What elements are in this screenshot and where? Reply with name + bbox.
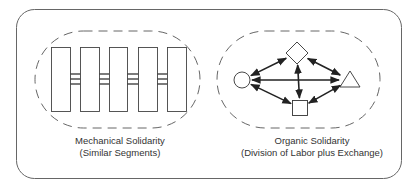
exchange-arrow-circle-diamond: [251, 58, 286, 75]
mechanical-solidarity-panel: [35, 31, 200, 128]
exchange-arrow-diamond-square: [298, 65, 300, 98]
organic-solidarity-caption: Organic Solidarity (Division of Labor pl…: [222, 135, 402, 159]
similar-segments: [52, 48, 187, 112]
diamond-node: [286, 42, 308, 64]
triangle-node: [340, 71, 360, 87]
exchange-arrow-square-triangle: [309, 85, 341, 103]
exchange-arrow-diamond-triangle: [308, 58, 341, 75]
circle-node: [234, 72, 250, 88]
exchange-arrow-circle-square: [251, 84, 291, 103]
mechanical-solidarity-caption: Mechanical Solidarity (Similar Segments): [40, 135, 200, 159]
segment-rect: [110, 48, 128, 112]
segment-rect: [168, 48, 187, 112]
segment-rect: [139, 48, 158, 112]
specialized-nodes: [234, 42, 360, 116]
organic-solidarity-panel: [217, 31, 380, 128]
square-node: [293, 101, 308, 116]
exchange-arrows: [251, 58, 340, 103]
organic-solidarity-subtitle: (Division of Labor plus Exchange): [222, 147, 402, 159]
segment-rect: [52, 48, 71, 112]
segment-rect: [81, 48, 100, 112]
organic-solidarity-title: Organic Solidarity: [222, 135, 402, 147]
mechanical-solidarity-title: Mechanical Solidarity: [40, 135, 200, 147]
mechanical-solidarity-subtitle: (Similar Segments): [40, 147, 200, 159]
